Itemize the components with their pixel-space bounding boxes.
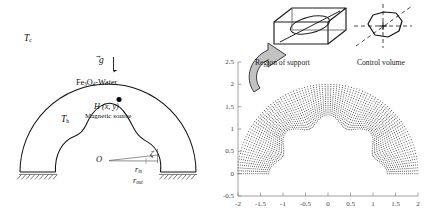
y-tick-label: 0 (216, 170, 234, 178)
x-tick-label: 1.5 (384, 200, 408, 208)
node-distribution-panel: 2.5 2 1.5 1 0.5 0 -0.5 -2 -1.5 -1 -0.5 0… (216, 0, 433, 216)
node-cloud (237, 84, 418, 174)
ground-hatch-left (17, 174, 57, 179)
x-tick-label: -1 (271, 200, 295, 208)
x-tick-label: -2 (226, 200, 250, 208)
ground-hatch-right (159, 174, 197, 179)
y-tick-label: 2 (216, 80, 234, 88)
node-plot-drawing (216, 0, 433, 216)
magnetic-source-label: Magnetic source (85, 113, 131, 120)
x-tick-label: 0.5 (339, 200, 363, 208)
angle-zeta-label: ζ (150, 150, 154, 159)
control-volume-caption: Control volume (357, 58, 405, 67)
nanofluid-label: Fe3O4-Water (76, 79, 117, 87)
schematic-panel: Tc Th ⃗g Fe3O4-Water H (x, y) Magnetic s… (0, 0, 216, 216)
x-tick-label: 0 (316, 200, 340, 208)
control-volume-inset (354, 4, 412, 48)
gravity-label: ⃗g (99, 56, 104, 66)
hot-wall-label: Th (61, 115, 69, 125)
x-tick-label: 2 (406, 200, 430, 208)
outer-radius-label: rout (133, 177, 143, 185)
magnetic-point-label: H (x, y) (94, 103, 119, 111)
origin-label: O (96, 155, 102, 164)
region-of-support-inset (274, 8, 346, 44)
y-tick-label: 0.5 (216, 147, 234, 155)
y-tick-label: 1.5 (216, 103, 234, 111)
y-tick-label: 1 (216, 125, 234, 133)
cold-wall-label: Tc (24, 34, 32, 44)
y-tick-label: 2.5 (216, 58, 234, 66)
region-of-support-caption: Region of support (255, 58, 310, 67)
two-panel-figure: Tc Th ⃗g Fe3O4-Water H (x, y) Magnetic s… (0, 0, 433, 216)
x-tick-label: -0.5 (294, 200, 318, 208)
cavity-outline (20, 84, 196, 172)
y-tick-label: -0.5 (216, 192, 234, 200)
curved-arrow-icon (249, 43, 286, 92)
x-tick-label: 1 (361, 200, 385, 208)
inner-radius-label: rin (135, 166, 142, 174)
x-tick-label: -1.5 (249, 200, 273, 208)
